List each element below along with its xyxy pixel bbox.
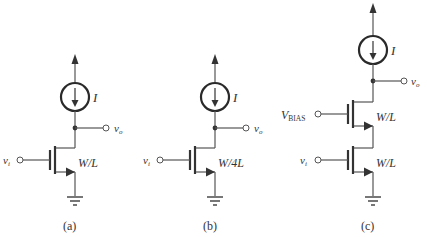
size-label: W/4L bbox=[218, 156, 244, 170]
circuit-c: I vo VBIAS W/L vi W/L bbox=[281, 3, 420, 233]
nmos-transistor bbox=[190, 146, 215, 196]
nmos-input-transistor bbox=[348, 146, 373, 196]
circuit-figure: I vo vi W/L (a) bbox=[0, 0, 427, 237]
size-label: W/L bbox=[376, 156, 396, 170]
arrow-up-icon bbox=[212, 54, 219, 64]
arrow-down-icon bbox=[72, 100, 79, 107]
ground-icon bbox=[365, 197, 381, 205]
input-terminal[interactable] bbox=[315, 157, 321, 163]
arrow-down-icon bbox=[370, 53, 377, 60]
circuit-b: I vo vi W/4L (b) bbox=[143, 54, 263, 233]
ground-icon bbox=[67, 197, 83, 205]
input-terminal[interactable] bbox=[17, 157, 23, 163]
current-source bbox=[61, 83, 89, 111]
current-label: I bbox=[390, 43, 396, 58]
size-label: W/L bbox=[78, 156, 98, 170]
size-label: W/L bbox=[376, 110, 396, 124]
bias-label: VBIAS bbox=[281, 108, 305, 123]
source-arrow-icon bbox=[206, 168, 215, 177]
caption: (a) bbox=[63, 219, 76, 233]
output-label: vo bbox=[411, 75, 420, 89]
input-label: vi bbox=[3, 154, 10, 168]
output-terminal[interactable] bbox=[401, 78, 407, 84]
current-label: I bbox=[232, 90, 238, 105]
output-terminal[interactable] bbox=[103, 125, 109, 131]
source-arrow-icon bbox=[66, 168, 75, 177]
input-terminal[interactable] bbox=[157, 157, 163, 163]
input-label: vi bbox=[300, 154, 307, 168]
caption: (b) bbox=[203, 219, 217, 233]
caption: (c) bbox=[361, 219, 374, 233]
arrow-up-icon bbox=[370, 3, 377, 13]
current-label: I bbox=[92, 90, 98, 105]
nmos-cascode-transistor bbox=[348, 100, 373, 148]
bias-terminal[interactable] bbox=[315, 111, 321, 117]
arrow-up-icon bbox=[72, 54, 79, 64]
output-label: vo bbox=[254, 122, 263, 136]
output-terminal[interactable] bbox=[243, 125, 249, 131]
nmos-transistor bbox=[50, 146, 75, 196]
input-label: vi bbox=[143, 154, 150, 168]
current-source bbox=[359, 36, 387, 64]
ground-icon bbox=[207, 197, 223, 205]
current-source bbox=[201, 83, 229, 111]
arrow-down-icon bbox=[212, 100, 219, 107]
circuit-a: I vo vi W/L (a) bbox=[3, 54, 123, 233]
source-arrow-icon bbox=[364, 168, 373, 177]
output-label: vo bbox=[114, 122, 123, 136]
source-arrow-icon bbox=[364, 122, 373, 131]
